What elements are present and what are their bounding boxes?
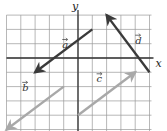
vector-c-label: c xyxy=(97,73,103,84)
y-axis-label: y xyxy=(71,0,79,13)
x-axis-label: x xyxy=(156,57,163,70)
vector-diagram: x y abcd xyxy=(0,0,167,131)
vector-a-label: a xyxy=(62,39,68,50)
vector-d-label: d xyxy=(135,35,141,46)
diagram-canvas: x y abcd xyxy=(0,0,167,131)
vector-b-label: b xyxy=(22,82,28,93)
